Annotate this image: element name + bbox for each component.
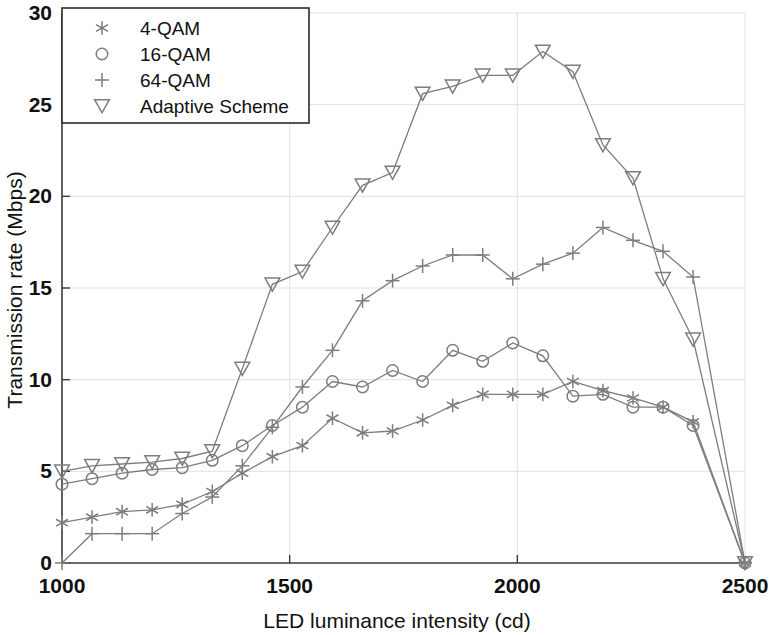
- data-point-asterisk: [567, 375, 579, 389]
- data-point-plus: [386, 274, 400, 288]
- series-polyline: [62, 382, 745, 564]
- data-point-plus: [356, 294, 370, 308]
- data-point-plus: [145, 527, 159, 541]
- series-adaptive-scheme: [55, 45, 753, 570]
- y-tick-label: 20: [29, 184, 52, 207]
- data-point-plus: [295, 380, 309, 394]
- series-polyline: [62, 52, 745, 564]
- y-axis-title: Transmission rate (Mbps): [3, 171, 26, 408]
- data-point-plus: [175, 507, 189, 521]
- legend-label-64-qam: 64-QAM: [140, 70, 211, 91]
- series-layer: [55, 45, 753, 570]
- data-point-plus: [446, 248, 460, 262]
- data-point-plus: [476, 248, 490, 262]
- x-tick-label: 1500: [266, 574, 313, 597]
- y-tick-label: 10: [29, 368, 52, 391]
- legend-label-adaptive-scheme: Adaptive Scheme: [140, 96, 289, 117]
- series-polyline: [62, 228, 745, 564]
- series-16-qam: [56, 337, 750, 568]
- data-point-asterisk: [327, 411, 339, 425]
- x-tick-label: 2000: [494, 574, 541, 597]
- data-point-plus: [536, 257, 550, 271]
- y-tick-label: 30: [29, 1, 52, 24]
- data-point-asterisk: [447, 398, 459, 412]
- data-point-plus: [416, 259, 430, 273]
- y-tick-label: 15: [29, 276, 53, 299]
- data-point-plus: [626, 233, 640, 247]
- legend-label-16-qam: 16-QAM: [140, 44, 211, 65]
- data-point-asterisk: [417, 413, 429, 427]
- x-tick-label: 2500: [722, 574, 769, 597]
- transmission-rate-line-chart: 0510152025301000150020002500 4-QAM16-QAM…: [0, 0, 774, 635]
- data-point-asterisk: [266, 450, 278, 464]
- series-4-qam: [56, 375, 751, 570]
- series-64-qam: [55, 221, 752, 571]
- series-polyline: [62, 343, 745, 563]
- legend-label-4-qam: 4-QAM: [140, 18, 200, 39]
- chart-container: 0510152025301000150020002500 4-QAM16-QAM…: [0, 0, 774, 635]
- y-tick-label: 0: [40, 551, 52, 574]
- data-point-asterisk: [296, 439, 308, 453]
- y-tick-label: 25: [29, 93, 53, 116]
- data-point-plus: [115, 527, 129, 541]
- x-tick-label: 1000: [39, 574, 86, 597]
- y-tick-label: 5: [40, 459, 52, 482]
- x-axis-title: LED luminance intensity (cd): [263, 609, 530, 632]
- chart-legend: 4-QAM16-QAM64-QAMAdaptive Scheme: [62, 8, 309, 123]
- data-point-asterisk: [86, 510, 98, 524]
- data-point-asterisk: [56, 516, 68, 530]
- data-point-plus: [325, 343, 339, 357]
